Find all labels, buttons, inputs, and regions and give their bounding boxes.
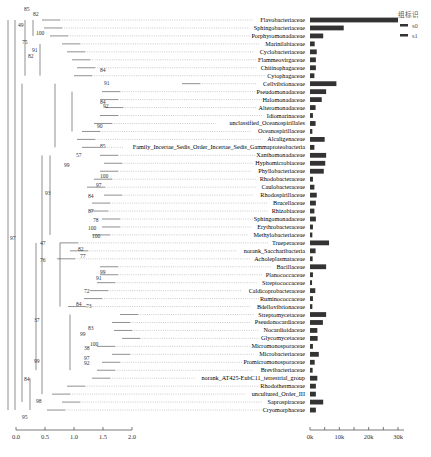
bootstrap-value: 78: [93, 217, 99, 223]
leaf-label: Rhizobiaceae: [272, 207, 306, 214]
bar-axis-tick: 30k: [393, 433, 404, 440]
abundance-bar: [310, 209, 314, 214]
legend-label-s1: s1: [412, 32, 418, 39]
bootstrap-value: 91: [104, 80, 110, 86]
bootstrap-value: 73: [86, 303, 92, 309]
abundance-bar: [310, 320, 323, 325]
bootstrap-value: 72: [84, 288, 90, 294]
leaf-label: Trueperaceae: [272, 239, 305, 246]
bootstrap-value: 91: [96, 275, 102, 281]
abundance-bar: [310, 26, 344, 31]
leaf-label: Promicromonosporaceae: [243, 358, 305, 365]
bootstrap-value: 97: [96, 182, 102, 188]
abundance-bar: [310, 153, 326, 158]
leaf-label: Caldicoprobacteraceae: [249, 287, 306, 294]
leaf-label: Rhodobacteraceae: [260, 175, 306, 182]
bootstrap-value: 92: [84, 360, 90, 366]
abundance-bar: [310, 129, 312, 134]
abundance-bar: [310, 392, 316, 397]
abundance-bar: [310, 248, 316, 253]
abundance-bar: [310, 113, 313, 118]
abundance-bar: [310, 233, 312, 238]
abundance-bar: [310, 304, 312, 309]
abundance-bar: [310, 161, 325, 166]
leaf-label: Cellvibrionaceae: [263, 80, 305, 87]
abundance-bar: [310, 201, 316, 206]
leaf-label: Cytophagaceae: [267, 72, 305, 79]
leaf-label: Chitinophagaceae: [261, 64, 306, 71]
bootstrap-value: 84: [100, 67, 106, 73]
bootstrap-value: 100: [100, 173, 109, 179]
bootstrap-value: 87: [88, 208, 94, 214]
bootstrap-value: 97: [10, 235, 16, 241]
abundance-bar: [310, 105, 316, 110]
leaf-label: Brucellaceae: [273, 199, 305, 206]
abundance-bar: [310, 384, 316, 389]
leaf-label: norank_Saccharibacteria: [244, 247, 305, 254]
bootstrap-value: 84: [24, 376, 30, 382]
leaf-label: Ruminococcaceae: [260, 295, 305, 302]
abundance-bar: [310, 145, 314, 150]
leaf-label: Pseudomonadaceae: [257, 88, 306, 95]
leaf-label: Caulobacteraceae: [261, 183, 305, 190]
leaf-label: Bacillaceae: [276, 263, 305, 270]
leaf-label: Nocardioidaceae: [263, 326, 305, 333]
leaf-label: Methylobacteriaceae: [253, 231, 305, 238]
leaf-label: Cyclobacteriaceae: [260, 48, 306, 55]
bootstrap-value: 98: [36, 398, 42, 404]
bootstrap-value: 99: [34, 358, 40, 364]
leaf-label: Pseudonocardiaceae: [255, 318, 305, 325]
bootstrap-value: 99: [80, 331, 86, 337]
leaf-label: Saprospiraceae: [268, 398, 306, 405]
leaf-label: Marinilabiaceae: [265, 40, 305, 47]
leaf-label: Idiomarinaceae: [267, 112, 305, 119]
abundance-bar: [310, 376, 317, 381]
bootstrap-value: 92: [103, 103, 109, 109]
leaf-label: Porphyromonadaceae: [251, 32, 305, 39]
leaf-label: norank_AT425-EubC11_terrestrial_group: [201, 374, 305, 381]
phylogenetic-tree-bar-chart: 8582491007591828491849290855799100978487…: [0, 0, 431, 457]
abundance-bar: [310, 57, 316, 62]
abundance-bar: [310, 89, 326, 94]
tree-axis-tick: 1.0: [70, 433, 78, 440]
bar-value-axis: 0k10k20k30k: [307, 427, 404, 440]
bar-axis-tick: 20k: [364, 433, 375, 440]
leaf-label: Cryomorphaceae: [263, 406, 306, 413]
abundance-bar: [310, 217, 316, 222]
leaf-label: Hyphomicrobiaceae: [255, 159, 305, 166]
legend-label-s0: s0: [412, 22, 418, 29]
leaf-label: Streptomycetaceae: [258, 311, 305, 318]
abundance-bar: [310, 34, 323, 39]
abundance-bar: [310, 352, 319, 357]
abundance-bar: [310, 312, 326, 317]
abundance-bar: [310, 81, 336, 86]
bootstrap-value: 95: [22, 414, 28, 420]
abundance-bar: [310, 296, 313, 301]
leaf-label: Halomonadaceae: [262, 96, 305, 103]
leaf-label: Glycomycetaceae: [261, 334, 305, 341]
bootstrap-value: 76: [40, 257, 46, 263]
abundance-bar: [310, 336, 318, 341]
bootstrap-value: 100: [92, 233, 101, 239]
abundance-bar: [310, 225, 313, 230]
bootstrap-value: 82: [33, 11, 39, 17]
leaf-label: Family_Incertae_Sedis_Order_Incertae_Sed…: [133, 143, 305, 150]
bootstrap-value: 57: [76, 152, 82, 158]
abundance-bar: [310, 193, 317, 198]
bootstrap-value: 100: [36, 30, 45, 36]
bootstrap-value: 49: [18, 22, 24, 28]
bootstrap-value: 82: [28, 53, 34, 59]
legend-swatch-s0: [400, 24, 408, 27]
bootstrap-value: 77: [80, 253, 86, 259]
leaf-label: Planococcaceae: [266, 271, 305, 278]
leaf-label: Brevibacteriaceae: [261, 366, 306, 373]
abundance-bar: [310, 169, 324, 174]
bootstrap-value: 85: [24, 6, 30, 12]
bootstrap-value: 47: [40, 240, 46, 246]
bootstrap-value: 100: [90, 341, 99, 347]
abundance-bar: [310, 328, 317, 333]
abundance-bar: [310, 41, 315, 46]
abundance-bars: [310, 18, 398, 413]
bar-axis-tick: 10k: [334, 433, 345, 440]
leaf-label: Streptococcaceae: [262, 279, 305, 286]
